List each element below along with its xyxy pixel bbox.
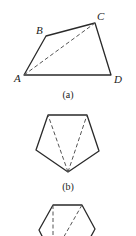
vertex-label-c: C [97, 10, 105, 22]
hexagon-partial [39, 205, 95, 236]
panel-c-hexagon [39, 205, 95, 236]
panel-a-quadrilateral: A B C D (a) [13, 10, 122, 101]
caption-a: (a) [62, 89, 73, 101]
diagonal-left [48, 115, 68, 172]
pentagon [36, 115, 99, 172]
vertex-label-a: A [13, 72, 21, 84]
diagonal-right [68, 115, 87, 172]
vertex-label-b: B [36, 24, 43, 36]
caption-b: (b) [62, 181, 74, 193]
diagonal-ac [24, 23, 95, 75]
panel-b-pentagon: (b) [36, 115, 99, 193]
polygon-diagonals-figure: A B C D (a) (b) [0, 0, 136, 236]
vertex-label-d: D [113, 73, 122, 85]
diagonal-slanted [62, 205, 82, 236]
